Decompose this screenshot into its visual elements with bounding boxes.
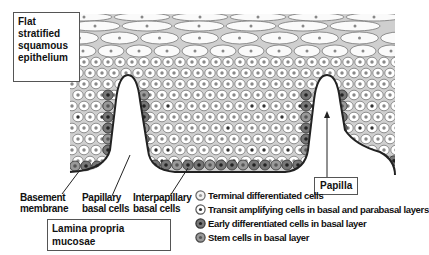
papilla-arrowhead — [324, 111, 330, 118]
legend-item: Early differentiated cells in basal laye… — [195, 216, 429, 230]
label-interpapillary-basal-cells: Interpapillary basal cells — [133, 192, 192, 214]
cell-type-icon — [195, 190, 206, 201]
legend: Terminal differentiated cellsTransit amp… — [195, 188, 429, 244]
legend-item: Stem cells in basal layer — [195, 230, 429, 244]
title-line: squamous — [18, 40, 75, 52]
title-line: Flat — [18, 16, 75, 28]
legend-item: Terminal differentiated cells — [195, 188, 429, 202]
cell-type-icon — [195, 204, 206, 215]
cell-type-icon — [195, 232, 206, 243]
legend-label: Early differentiated cells in basal laye… — [208, 218, 366, 229]
label-basement-membrane: Basement membrane — [20, 192, 68, 214]
label-papillary-basal-cells: Papillary basal cells — [82, 192, 129, 214]
legend-label: Terminal differentiated cells — [208, 190, 323, 201]
legend-item: Transit amplifying cells in basal and pa… — [195, 202, 429, 216]
pointer-basement — [62, 170, 80, 194]
lamina-propria-label: Lamina propria mucosae — [47, 219, 171, 251]
title-line: stratified — [18, 28, 75, 40]
title-line: epithelium — [18, 52, 75, 64]
title-box: Flat stratified squamous epithelium — [13, 12, 80, 82]
legend-label: Transit amplifying cells in basal and pa… — [208, 204, 429, 215]
pointer-papillary — [112, 155, 130, 196]
cell-type-icon — [195, 218, 206, 229]
legend-label: Stem cells in basal layer — [208, 232, 309, 243]
